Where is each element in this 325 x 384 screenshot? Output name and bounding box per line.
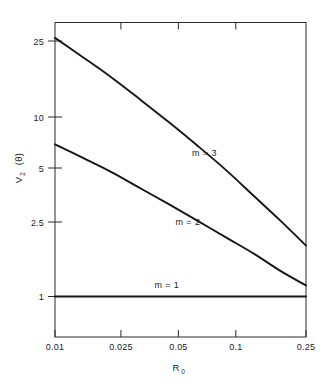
series-line-m3 [55,38,306,246]
y-tick-label-1: 1 [39,292,44,302]
y-tick-label-10: 10 [34,113,44,123]
series-label-m2: m = 2 [176,217,201,227]
x-axis-ticks [55,330,306,337]
y-tick-label-2.5: 2.5 [31,218,44,228]
y-axis-label-base: V [13,176,24,183]
y-axis-label: V 2 (θ) [13,153,26,184]
y-axis-label-tail: (θ) [13,153,24,166]
x-axis-label-sub: 0 [181,368,185,375]
x-axis-ticks-top [121,23,236,30]
x-tick-label-0.01: 0.01 [46,342,64,352]
y-tick-label-25: 25 [34,37,44,47]
series-line-m2 [55,144,306,285]
x-axis-label-base: R [172,362,179,373]
x-tick-label-0.025: 0.025 [109,342,133,352]
chart-figure: 25 10 5 2.5 1 0.01 0.025 0.05 0.1 0.25 R… [0,0,325,384]
chart-canvas: 25 10 5 2.5 1 0.01 0.025 0.05 0.1 0.25 R… [0,0,325,384]
x-tick-label-0.1: 0.1 [229,342,242,352]
x-tick-label-0.25: 0.25 [297,342,315,352]
x-axis-label: R 0 [172,362,185,375]
series-label-m1: m = 1 [155,280,180,290]
y-tick-label-5: 5 [39,164,44,174]
x-tick-label-0.05: 0.05 [169,342,187,352]
plot-frame [55,23,306,338]
series-label-m3: m = 3 [192,148,217,158]
y-axis-label-sub: 2 [19,172,26,176]
